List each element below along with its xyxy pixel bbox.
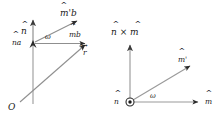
out-of-page-dot-icon [128,100,131,103]
left-panel-world-frame: ^ n ^ na ^ mb ^ m'b ω → r O [0,0,110,118]
right-panel-rotation-plane: ^ n ^ ^ n × m ^ m ^ m' ω [110,0,221,118]
hat-accent-na: ^ [13,29,20,38]
label-n-cross-m: n × m [111,27,139,37]
label-m-hat-right: m [205,97,212,106]
label-m-hat-b: mb [69,30,81,39]
hat-accent-m-right: ^ [206,88,213,97]
label-m-hat-prime-right: m' [178,55,187,64]
label-n-hat: n [21,26,27,36]
label-r-vector: r [83,48,87,57]
arrow-m-hat-prime-right [133,66,190,100]
hat-accent-n-right: ^ [115,88,122,97]
label-m-hat-prime-b: m'b [60,8,77,18]
label-n-cross-m-group: ^ ^ n × m [111,19,141,37]
arrow-position-vector-r [20,45,85,102]
label-n-hat-a: na [12,38,21,47]
hat-accent-mb: ^ [70,21,77,30]
label-omega-left: ω [45,33,51,41]
label-n-hat-right: n [114,97,119,106]
label-origin-O: O [8,102,16,112]
hat-accent-m-prime-right: ^ [179,46,186,55]
label-omega-right: ω [150,92,156,100]
vector-diagram-figure: ^ n ^ na ^ mb ^ m'b ω → r O [0,0,221,118]
